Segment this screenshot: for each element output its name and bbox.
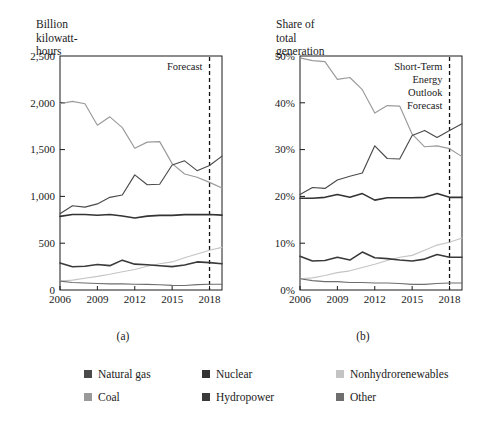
figure-container: Billion kilowatt-hours 05001,0001,5002,0… (0, 0, 485, 432)
y-tick-label: 20% (275, 190, 295, 202)
legend-swatch-nonhydrorenewables (336, 370, 344, 378)
legend-label: Nonhydrorenewables (350, 368, 448, 380)
y-tick-label: 2,500 (30, 50, 55, 62)
legend-item-nuclear[interactable]: Nuclear (202, 368, 336, 380)
y-tick-label: 10% (275, 237, 295, 249)
legend-row: Natural gasNuclearNonhydrorenewables (84, 362, 464, 385)
series-line-nuclear (300, 194, 462, 201)
series-line-natural-gas (60, 156, 222, 214)
series-line-coal (60, 101, 222, 188)
forecast-label: Energy (412, 74, 443, 85)
chart-legend: Natural gasNuclearNonhydrorenewablesCoal… (84, 362, 464, 408)
x-tick-label: 2012 (364, 293, 386, 305)
y-tick-label: 2,000 (30, 97, 55, 109)
legend-item-natural-gas[interactable]: Natural gas (84, 368, 202, 380)
legend-swatch-coal (84, 393, 92, 401)
forecast-label: Forecast (167, 61, 203, 72)
legend-item-coal[interactable]: Coal (84, 391, 202, 403)
y-tick-label: 50% (275, 50, 295, 62)
forecast-label: Outlook (408, 87, 443, 98)
series-line-other (300, 279, 462, 285)
legend-row: CoalHydropowerOther (84, 385, 464, 408)
series-line-other (60, 281, 222, 285)
x-tick-label: 2006 (289, 293, 312, 305)
x-tick-label: 2018 (439, 293, 462, 305)
x-tick-label: 2009 (86, 293, 109, 305)
x-tick-label: 2018 (199, 293, 222, 305)
y-tick-label: 1,500 (30, 143, 55, 155)
legend-label: Natural gas (98, 368, 151, 380)
x-tick-label: 2009 (326, 293, 349, 305)
x-tick-label: 2015 (401, 293, 424, 305)
panel-b-subplot-label: (b) (258, 330, 468, 342)
x-tick-label: 2012 (124, 293, 146, 305)
y-tick-label: 1,000 (30, 190, 55, 202)
legend-item-nonhydrorenewables[interactable]: Nonhydrorenewables (336, 368, 464, 380)
panel-b-plot: 0%10%20%30%40%50%20062009201220152018Sho… (258, 50, 468, 312)
legend-swatch-other (336, 393, 344, 401)
x-tick-label: 2015 (161, 293, 184, 305)
legend-label: Coal (98, 391, 120, 403)
series-line-nuclear (60, 214, 222, 218)
legend-swatch-natural-gas (84, 370, 92, 378)
legend-label: Other (350, 391, 376, 403)
legend-label: Nuclear (216, 368, 252, 380)
legend-label: Hydropower (216, 391, 274, 403)
series-line-natural-gas (300, 124, 462, 195)
y-tick-label: 30% (275, 143, 295, 155)
panel-a-subplot-label: (a) (18, 330, 228, 342)
series-line-hydropower (300, 252, 462, 261)
y-tick-label: 500 (39, 237, 56, 249)
plot-frame (60, 56, 222, 290)
legend-swatch-hydropower (202, 393, 210, 401)
panel-a-svg: 05001,0001,5002,0002,5002006200920122015… (18, 50, 228, 312)
x-tick-label: 2006 (49, 293, 72, 305)
panel-a-plot: 05001,0001,5002,0002,5002006200920122015… (18, 50, 228, 312)
legend-item-other[interactable]: Other (336, 391, 464, 403)
panel-b-svg: 0%10%20%30%40%50%20062009201220152018Sho… (258, 50, 468, 312)
forecast-label: Short-Term (394, 61, 442, 72)
series-line-hydropower (60, 260, 222, 267)
legend-swatch-nuclear (202, 370, 210, 378)
y-tick-label: 40% (275, 97, 295, 109)
forecast-label: Forecast (407, 100, 443, 111)
legend-item-hydropower[interactable]: Hydropower (202, 391, 336, 403)
